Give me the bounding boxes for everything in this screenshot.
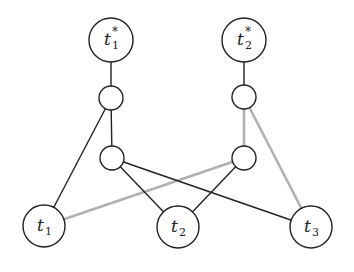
edges-layer [44,40,311,227]
node-circle [100,146,124,170]
node-b1 [100,146,124,170]
node-t2: t2 [157,206,199,248]
nodes-layer: t*1t*2t1t2t3 [23,18,332,248]
node-circle [290,206,332,248]
node-a1 [99,86,123,110]
node-label: t*1 [104,25,119,52]
tree-graph-diagram: t*1t*2t1t2t3 [0,0,354,272]
node-circle [232,146,256,170]
node-t2_star: t*2 [222,18,266,62]
node-circle [23,205,65,247]
node-circle [157,206,199,248]
node-circle [89,18,133,62]
node-t1: t1 [23,205,65,247]
node-circle [232,85,256,109]
node-b2 [232,146,256,170]
node-circle [222,18,266,62]
node-t1_star: t*1 [89,18,133,62]
node-circle [99,86,123,110]
node-a2 [232,85,256,109]
node-t3: t3 [290,206,332,248]
node-label: t*2 [237,25,252,52]
